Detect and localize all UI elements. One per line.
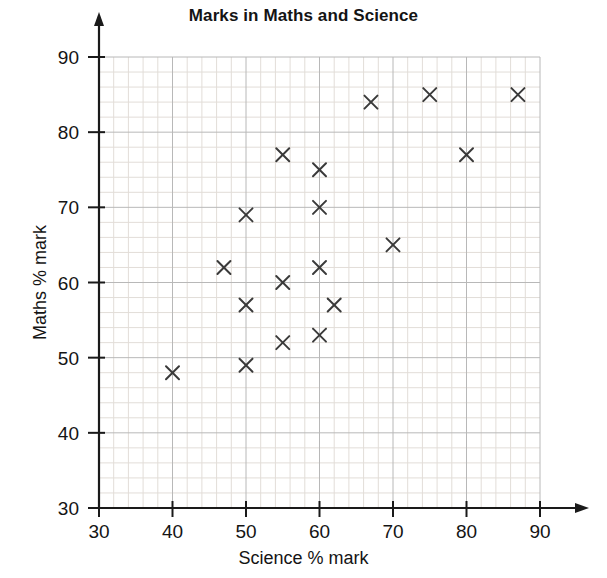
data-point [276, 148, 289, 161]
svg-text:80: 80 [58, 122, 79, 143]
svg-text:50: 50 [58, 348, 79, 369]
svg-text:80: 80 [456, 521, 477, 542]
svg-text:30: 30 [88, 521, 109, 542]
major-gridlines [99, 57, 540, 508]
svg-text:40: 40 [58, 423, 79, 444]
svg-text:40: 40 [162, 521, 183, 542]
plot-area: 30405060708090 30405060708090 [0, 0, 607, 578]
y-axis-label: Maths % mark [30, 183, 51, 383]
y-tick-labels: 30405060708090 [58, 47, 79, 519]
svg-text:90: 90 [58, 47, 79, 68]
svg-text:90: 90 [529, 521, 550, 542]
svg-text:30: 30 [58, 498, 79, 519]
svg-text:70: 70 [382, 521, 403, 542]
svg-text:50: 50 [235, 521, 256, 542]
svg-text:60: 60 [309, 521, 330, 542]
data-point [511, 88, 524, 101]
data-point [423, 88, 436, 101]
x-tick-labels: 30405060708090 [88, 521, 550, 542]
svg-text:60: 60 [58, 273, 79, 294]
svg-text:70: 70 [58, 197, 79, 218]
scatter-chart: Marks in Maths and Science 3040506070809… [0, 0, 607, 578]
x-axis-label: Science % mark [0, 548, 607, 569]
